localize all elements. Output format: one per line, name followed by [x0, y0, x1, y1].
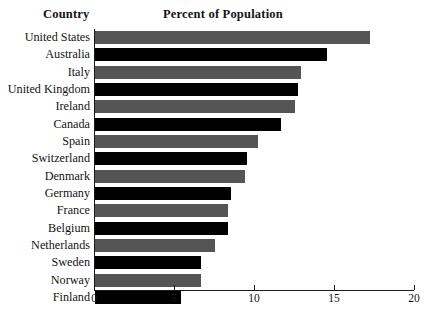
category-label: Italy	[68, 64, 90, 81]
category-label: Switzerland	[32, 150, 90, 167]
x-axis-tick-label: 20	[408, 292, 420, 304]
category-label: Canada	[53, 116, 90, 133]
category-label: Germany	[45, 185, 90, 202]
bar	[95, 274, 201, 287]
bar	[95, 66, 301, 79]
bar-row: Norway	[0, 272, 431, 289]
x-axis-line	[94, 290, 414, 291]
x-axis-tick	[414, 285, 415, 290]
bar-row: Italy	[0, 64, 431, 81]
bar	[95, 118, 281, 131]
bar	[95, 152, 247, 165]
category-label: Denmark	[45, 168, 90, 185]
bar-row: Sweden	[0, 254, 431, 271]
bar-row: Finland	[0, 289, 431, 306]
category-label: Netherlands	[31, 237, 90, 254]
x-axis-tick	[254, 285, 255, 290]
bar-row: United Kingdom	[0, 81, 431, 98]
bar-row: United States	[0, 29, 431, 46]
bar	[95, 222, 228, 235]
bar-row: Australia	[0, 46, 431, 63]
x-axis-tick	[94, 285, 95, 290]
bar-row: Germany	[0, 185, 431, 202]
category-label: Belgium	[48, 220, 90, 237]
category-label: United States	[25, 29, 90, 46]
x-axis-tick-label: 5	[171, 292, 177, 304]
category-label: Spain	[62, 133, 90, 150]
category-label: Ireland	[55, 98, 90, 115]
category-label: United Kingdom	[8, 81, 90, 98]
category-label: Australia	[45, 46, 90, 63]
bar	[95, 135, 258, 148]
bar	[95, 256, 201, 269]
chart-title: Percent of Population	[163, 7, 283, 22]
category-label: Finland	[53, 289, 90, 306]
bar	[95, 100, 295, 113]
y-axis-line	[94, 29, 95, 290]
category-label: Norway	[51, 272, 90, 289]
bar-row: Netherlands	[0, 237, 431, 254]
column-header-country: Country	[43, 7, 90, 22]
bar-row: Switzerland	[0, 150, 431, 167]
bar-chart: Country Percent of Population United Sta…	[0, 0, 431, 312]
bar	[95, 204, 228, 217]
bar	[95, 170, 245, 183]
bar-row: Spain	[0, 133, 431, 150]
bar-row: Denmark	[0, 168, 431, 185]
bar-row: Belgium	[0, 220, 431, 237]
bar	[95, 291, 181, 304]
bar	[95, 48, 327, 61]
bar-rows: United StatesAustraliaItalyUnited Kingdo…	[0, 29, 431, 307]
bar	[95, 187, 231, 200]
bar-row: Ireland	[0, 98, 431, 115]
bar-row: Canada	[0, 116, 431, 133]
bar-row: France	[0, 202, 431, 219]
x-axis-tick-label: 10	[248, 292, 260, 304]
x-axis-tick	[334, 285, 335, 290]
bar	[95, 31, 370, 44]
category-label: France	[57, 202, 90, 219]
x-axis-tick-label: 0	[91, 292, 97, 304]
x-axis-tick	[174, 285, 175, 290]
x-axis-tick-label: 15	[328, 292, 340, 304]
bar	[95, 83, 298, 96]
bar	[95, 239, 215, 252]
category-label: Sweden	[51, 254, 90, 271]
